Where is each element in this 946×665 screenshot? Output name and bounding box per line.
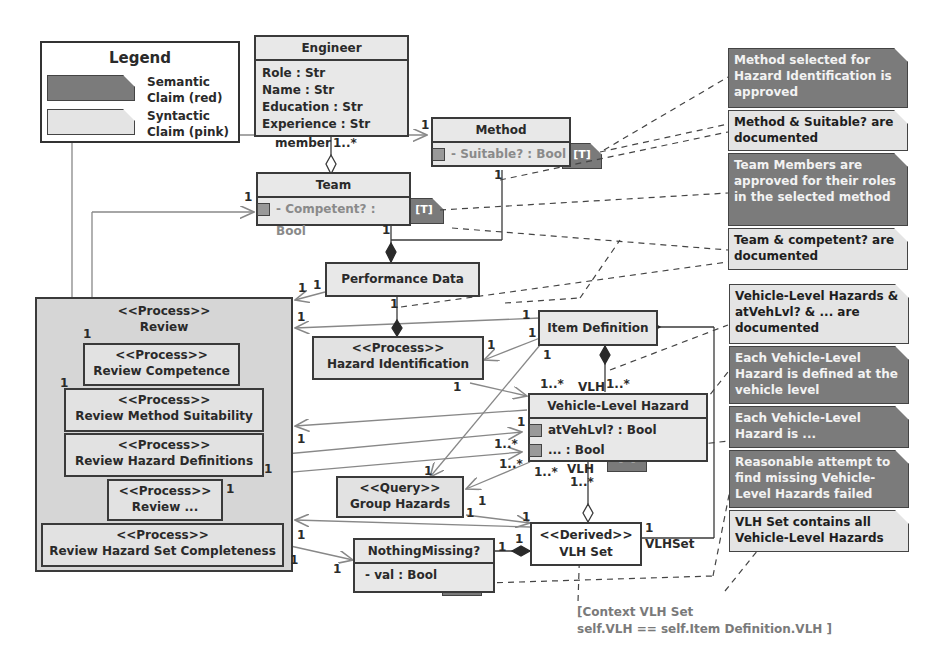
syntactic-claim-swatch [47, 109, 135, 135]
mult: 1..* [606, 377, 630, 391]
mult: 1 [333, 562, 341, 576]
mult: 1..* [499, 457, 523, 471]
claim-note-vlh-documented[interactable]: Vehicle-Level Hazards & atVehLvl? & ... … [729, 284, 909, 344]
mult: 1 [424, 464, 432, 478]
legend-semantic-label: Semantic Claim (red) [147, 74, 222, 106]
mult: 1 [498, 540, 506, 554]
mult: VLH [567, 462, 594, 476]
review-process-title: <<Process>> Review [37, 299, 291, 335]
mult: 1 [645, 521, 653, 535]
vlh-attributes: atVehLvl? : Bool ... : Bool [530, 417, 706, 460]
legend: Legend Semantic Claim (red) Syntactic Cl… [40, 41, 240, 143]
mult: 1 [522, 308, 530, 322]
claim-note-missing-vlh-failed[interactable]: Reasonable attempt to find missing Vehic… [729, 450, 909, 508]
review-etc-process[interactable]: <<Process>> Review ... [107, 479, 223, 521]
port-icon [529, 444, 542, 457]
vehicle-level-hazard-class[interactable]: Vehicle-Level Hazard atVehLvl? : Bool ..… [528, 393, 708, 462]
claim-note-method-documented[interactable]: Method & Suitable? are documented [728, 110, 908, 151]
engineer-multiplicity: 1..* [333, 136, 357, 150]
method-mult-bottom: 1 [494, 168, 502, 182]
engineer-class[interactable]: Engineer Role : Str Name : Str Education… [254, 35, 409, 137]
claim-note-vlh-defined[interactable]: Each Vehicle-Level Hazard is defined at … [729, 346, 909, 404]
team-title: Team [258, 174, 409, 196]
engineer-title: Engineer [256, 37, 407, 59]
mult: 1 [390, 297, 398, 311]
mult: 1 [487, 338, 495, 352]
vlh-set-role-label: VLHSet [645, 537, 695, 551]
mult: 1 [478, 494, 486, 508]
ocl-constraint: [Context VLH Set self.VLH == self.Item D… [577, 604, 832, 638]
mult: 1..* [540, 377, 564, 391]
review-hazard-set-completeness-process[interactable]: <<Process>> Review Hazard Set Completene… [41, 523, 284, 567]
port-icon [432, 148, 445, 161]
team-mult-bottom: 1 [382, 223, 390, 237]
mult: 1..* [494, 437, 518, 451]
method-attribute: - Suitable? : Bool [433, 141, 569, 165]
semantic-claim-swatch [47, 75, 135, 101]
mult: 1 [83, 327, 91, 341]
review-method-suitability-process[interactable]: <<Process>> Review Method Suitability [64, 388, 264, 432]
mult: 1 [522, 510, 530, 524]
mult: 1..* [534, 465, 558, 479]
nothing-missing-title: NothingMissing? [355, 540, 493, 562]
port-icon [529, 424, 542, 437]
mult: VLH [578, 380, 605, 394]
team-attribute: - Competent? : Bool [258, 196, 409, 220]
review-competence-process[interactable]: <<Process>> Review Competence [83, 343, 240, 386]
mult: 1 [313, 278, 321, 292]
mult: 1 [297, 310, 305, 324]
mult: 1 [543, 348, 551, 362]
group-hazards-query[interactable]: <<Query>> Group Hazards [336, 476, 464, 518]
mult: 1 [453, 380, 461, 394]
hazard-identification-process[interactable]: <<Process>> Hazard Identification [312, 336, 484, 380]
claim-note-method-approved[interactable]: Method selected for Hazard Identificatio… [728, 48, 908, 108]
performance-data-class[interactable]: Performance Data [325, 262, 480, 297]
nothing-missing-attribute: - val : Bool [355, 562, 493, 586]
claim-note-vlh-set-complete[interactable]: VLH Set contains all Vehicle-Level Hazar… [729, 510, 909, 552]
mult: 1 [297, 528, 305, 542]
method-class[interactable]: Method - Suitable? : Bool [431, 117, 571, 167]
team-mult-left: 1 [244, 190, 252, 204]
method-title: Method [433, 119, 569, 141]
claim-note-vlh-etc[interactable]: Each Vehicle-Level Hazard is ... [729, 406, 909, 448]
item-definition-class[interactable]: Item Definition [538, 310, 658, 346]
mult: 1 [466, 506, 474, 520]
claim-note-team-approved[interactable]: Team Members are approved for their role… [728, 153, 908, 226]
mult: 1 [298, 281, 306, 295]
review-hazard-definitions-process[interactable]: <<Process>> Review Hazard Definitions [64, 433, 264, 477]
claim-note-team-documented[interactable]: Team & competent? are documented [728, 228, 908, 270]
mult: 1 [517, 415, 525, 429]
mult: 1..* [570, 475, 594, 489]
mult: 1 [515, 532, 523, 546]
method-mult-left: 1 [421, 118, 429, 132]
team-class[interactable]: Team - Competent? : Bool [256, 172, 411, 226]
legend-syntactic-label: Syntactic Claim (pink) [147, 108, 229, 140]
legend-title: Legend [42, 49, 238, 67]
mult: 1 [226, 482, 234, 496]
mult: 1 [264, 462, 272, 476]
nothing-missing-class[interactable]: NothingMissing? - val : Bool [353, 538, 495, 593]
vlh-title: Vehicle-Level Hazard [530, 395, 706, 417]
port-icon [257, 203, 270, 216]
engineer-attributes: Role : Str Name : Str Education : Str Ex… [256, 59, 407, 137]
engineer-role-label: member [275, 136, 331, 150]
mult: 1 [528, 326, 536, 340]
vlh-set-class[interactable]: <<Derived>> VLH Set [530, 522, 642, 566]
mult: 1 [297, 432, 305, 446]
mult: 1 [290, 553, 298, 567]
